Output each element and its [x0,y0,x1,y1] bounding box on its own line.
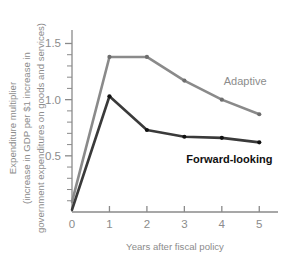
expenditure-multiplier-line-chart: 0.51.01.5 012345 Expenditure multiplier … [0,0,285,262]
x-tick-label: 3 [181,218,187,230]
data-point-marker [107,94,111,98]
x-tick-label: 2 [144,218,150,230]
x-axis-title: Years after fiscal policy [126,241,224,252]
data-point-marker [182,135,186,139]
y-axis-title-line-1: Expenditure multiplier [7,81,18,174]
data-point-marker [107,55,111,59]
data-point-marker [257,140,261,144]
data-point-marker [145,55,149,59]
series-label-adaptive: Adaptive [224,75,267,87]
x-tick-label: 4 [219,218,226,230]
y-tick-label: 1.5 [45,37,61,49]
y-axis-title-line-3: government expenditures on goods and ser… [35,23,46,233]
data-point-marker [220,136,224,140]
data-point-marker [145,128,149,132]
data-point-marker [220,98,224,102]
y-tick-label: 0.5 [45,150,61,162]
y-axis-title-line-2: (increase in GDP per $1 increase in [21,52,32,204]
series-label-forward-looking: Forward-looking [186,153,272,165]
x-tick-label: 0 [69,218,75,230]
x-tick-label: 1 [106,218,112,230]
data-point-marker [257,112,261,116]
y-tick-label: 1.0 [45,94,61,106]
data-point-marker [182,78,186,82]
chart-figure: 0.51.01.5 012345 Expenditure multiplier … [0,0,285,262]
x-tick-label: 5 [256,218,262,230]
